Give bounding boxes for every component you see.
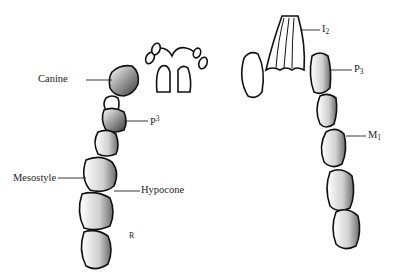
incisor-small-2 xyxy=(150,42,162,56)
canine-tooth xyxy=(109,66,138,96)
label-canine: Canine xyxy=(38,74,68,85)
premolar-4 xyxy=(95,130,118,156)
incisor-small-3 xyxy=(192,47,202,59)
label-lower-p3-sub: 3 xyxy=(360,67,364,76)
dental-diagram xyxy=(0,0,397,280)
incisor-large-1 xyxy=(157,66,170,92)
lower-premolar-3 xyxy=(310,53,330,93)
lower-molar-1 xyxy=(321,129,345,166)
lower-premolar-4 xyxy=(317,94,337,127)
lower-molar-2 xyxy=(327,170,354,211)
upper-jaw-tooth-row xyxy=(79,42,208,269)
label-m1-base: M xyxy=(368,129,377,140)
premolar-3 xyxy=(102,108,126,132)
label-i2-sub: 2 xyxy=(326,27,330,36)
label-hypocone: Hypocone xyxy=(141,185,184,196)
lower-molar-3 xyxy=(333,210,360,249)
label-upper-p3-sup: 3 xyxy=(156,114,160,123)
orientation-mark: R xyxy=(129,232,134,240)
label-m1-sub: 1 xyxy=(377,133,381,142)
incisor-fan xyxy=(266,16,304,70)
lower-canine xyxy=(242,53,264,98)
label-mesostyle: Mesostyle xyxy=(13,173,56,184)
label-upper-p3: P3 xyxy=(150,115,160,128)
label-lower-p3: P3 xyxy=(354,64,364,76)
incisor-small-4 xyxy=(197,56,209,70)
molar-1 xyxy=(84,157,117,191)
label-i2: I2 xyxy=(322,24,329,36)
molar-3 xyxy=(81,231,111,269)
lower-jaw-tooth-row xyxy=(242,16,360,249)
label-m1: M1 xyxy=(368,130,381,142)
incisor-large-2 xyxy=(178,66,191,92)
molar-2 xyxy=(79,193,113,230)
